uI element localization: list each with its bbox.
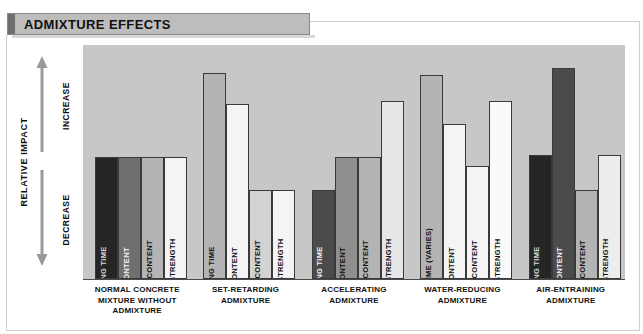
bar-label: SETTING TIME (VARIES) [424,227,432,279]
bar-label: WATER CONTENT [579,240,587,279]
y-axis: RELATIVE IMPACT INCREASE DECREASE [10,45,83,279]
arrow-up-icon [36,56,48,156]
bar-label: EARLY STRENGTH [276,238,284,279]
bar: WATER CONTENT [141,157,164,279]
title-banner: ADMIXTURE EFFECTS [7,13,310,35]
bar-label: SETTING TIME [99,246,107,279]
bar-label: WATER CONTENT [470,240,478,279]
bar: SETTING TIME [203,73,226,279]
bar-label: AIR CONTENT [447,247,455,279]
page-frame-left [6,35,7,331]
y-axis-increase-label: INCREASE [61,82,71,130]
bar-label: SETTING TIME [533,246,541,279]
page-title: ADMIXTURE EFFECTS [24,17,171,32]
bar: EARLY STRENGTH [598,155,621,279]
x-axis-group-label: ACCELERATINGADMIXTURE [296,285,412,306]
bar: AIR CONTENT [335,157,358,279]
arrow-down-icon [36,170,48,270]
bar: AIR CONTENT [552,68,575,279]
bar-label: AIR CONTENT [230,247,238,279]
page-frame-bottom [6,330,639,331]
x-axis-group-label: WATER-REDUCINGADMIXTURE [404,285,520,306]
bar-label: EARLY STRENGTH [168,238,176,279]
x-axis-group-label: SET-RETARDINGADMIXTURE [187,285,303,306]
bar-label: SETTING TIME [316,246,324,279]
bar: AIR CONTENT [118,157,141,279]
x-axis-group-label: NORMAL CONCRETEMIXTURE WITHOUTADMIXTURE [79,285,195,317]
chart-figure: ADMIXTURE EFFECTS RELATIVE IMPACT INCREA… [0,0,643,334]
bar: AIR CONTENT [226,104,249,279]
bar-label: WATER CONTENT [145,240,153,279]
y-axis-decrease-group: DECREASE [24,165,80,275]
bar: EARLY STRENGTH [381,101,404,279]
page-frame-top [310,21,640,22]
bar-label: WATER CONTENT [253,240,261,279]
x-axis-group-label: AIR-ENTRAININGADMIXTURE [513,285,629,306]
bar: EARLY STRENGTH [489,101,512,279]
bar: WATER CONTENT [358,157,381,279]
bar: SETTING TIME (VARIES) [420,75,443,279]
bar: WATER CONTENT [575,190,598,279]
x-axis-baseline [83,279,625,280]
bar: EARLY STRENGTH [164,157,187,279]
bar-label: AIR CONTENT [339,247,347,279]
y-axis-increase-group: INCREASE [24,51,80,161]
title-banner-shadow [12,35,315,38]
bar-label: AIR CONTENT [122,247,130,279]
bar-label: EARLY STRENGTH [493,238,501,279]
bar-label: EARLY STRENGTH [385,238,393,279]
bar-label: SETTING TIME [207,246,215,279]
bar: WATER CONTENT [466,166,489,279]
bar-label: EARLY STRENGTH [602,238,610,279]
bar: SETTING TIME [95,157,118,279]
y-axis-decrease-label: DECREASE [61,194,71,245]
bar-label: AIR CONTENT [556,247,564,279]
bar: EARLY STRENGTH [272,190,295,279]
bar: SETTING TIME [312,190,335,279]
bar: AIR CONTENT [443,124,466,279]
title-accent-bar [8,14,15,34]
bar: WATER CONTENT [249,190,272,279]
page-frame-right [639,21,640,331]
bar: SETTING TIME [529,155,552,279]
bar-label: WATER CONTENT [362,240,370,279]
